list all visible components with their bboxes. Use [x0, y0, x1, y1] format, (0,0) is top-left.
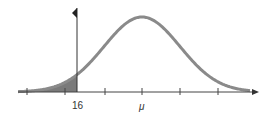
axis-arrow-icon — [252, 89, 259, 95]
flag-arrow-icon — [72, 8, 77, 18]
normal-curve-chart — [0, 0, 265, 120]
mean-label: μ — [139, 101, 144, 112]
normal-curve — [18, 17, 250, 92]
cutoff-label: 16 — [72, 100, 83, 111]
